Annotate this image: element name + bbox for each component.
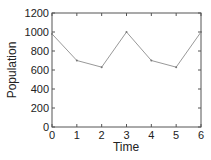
y-tick-label: 1000: [25, 26, 49, 38]
y-axis-ticks: 020040060080010001200: [25, 7, 201, 133]
data-point-marker: [200, 31, 202, 33]
y-tick-label: 1200: [25, 7, 49, 19]
x-tick-label: 0: [49, 129, 55, 141]
x-tick-label: 4: [148, 129, 154, 141]
line-chart: 020040060080010001200 0123456 Time Popul…: [0, 0, 211, 160]
x-tick-label: 5: [173, 129, 179, 141]
y-tick-label: 200: [31, 102, 49, 114]
data-point-marker: [150, 60, 152, 62]
y-tick-label: 800: [31, 45, 49, 57]
y-tick-label: 600: [31, 64, 49, 76]
population-line: [52, 32, 201, 67]
x-tick-label: 6: [198, 129, 204, 141]
y-axis-label: Population: [5, 42, 19, 99]
data-point-marker: [126, 31, 128, 33]
x-tick-label: 2: [99, 129, 105, 141]
data-point-marker: [101, 66, 103, 68]
y-tick-label: 400: [31, 83, 49, 95]
data-point-marker: [51, 33, 53, 35]
data-point-marker: [175, 66, 177, 68]
x-tick-label: 1: [74, 129, 80, 141]
x-axis-label: Time: [113, 140, 140, 154]
plot-frame: [52, 13, 201, 127]
data-point-marker: [76, 60, 78, 62]
